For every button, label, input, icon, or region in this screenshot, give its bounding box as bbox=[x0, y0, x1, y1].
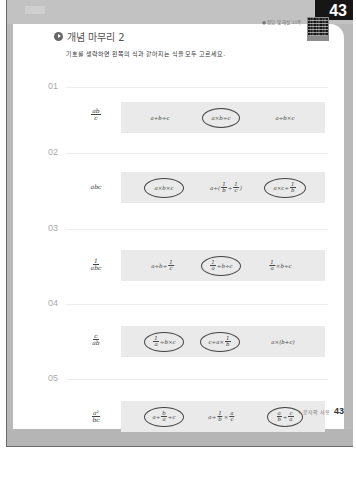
section-title-text: 개념 마무리 2 bbox=[67, 29, 125, 44]
choice[interactable]: a÷b÷1c bbox=[151, 260, 175, 272]
page-content bbox=[13, 24, 344, 429]
choice-box: a×b×c a÷(1b÷1c) a×c÷1b bbox=[121, 172, 325, 203]
question-expression: 1abc bbox=[82, 258, 110, 271]
divider bbox=[66, 87, 328, 88]
divider bbox=[66, 153, 328, 154]
footer-page-number: 43 bbox=[334, 406, 344, 416]
choice-circled[interactable]: a×b×c bbox=[144, 178, 184, 198]
choice-circled[interactable]: a×c÷1b bbox=[264, 178, 306, 198]
choice-circled[interactable]: 1a÷b÷c bbox=[201, 256, 241, 276]
divider bbox=[66, 304, 328, 305]
question-expression: cab bbox=[82, 333, 110, 346]
question-number: 02 bbox=[48, 147, 58, 157]
choice-box: a÷ba÷c a÷1b×ac ab÷ca bbox=[121, 401, 325, 432]
choice[interactable]: a÷b×c bbox=[275, 115, 294, 121]
question-number: 05 bbox=[48, 373, 58, 383]
choice-circled[interactable]: a÷ba÷c bbox=[144, 407, 184, 427]
choice-box: a÷b÷c a×b÷c a÷b×c bbox=[121, 102, 325, 133]
question-expression: a²bc bbox=[82, 410, 110, 423]
choice-box: 1a÷b×c c÷a×1b a×(b+c) bbox=[121, 326, 325, 357]
instruction-text: 기호를 생략하면 왼쪽의 식과 같아지는 식을 모두 고르세요. bbox=[66, 49, 225, 58]
choice[interactable]: a÷b÷c bbox=[150, 115, 169, 121]
choice-circled[interactable]: 1a÷b×c bbox=[144, 332, 184, 352]
choice-circled[interactable]: c÷a×1b bbox=[200, 332, 240, 352]
question-expression: abc bbox=[82, 183, 110, 190]
choice[interactable]: 1a×b÷c bbox=[268, 260, 291, 272]
play-icon bbox=[54, 32, 63, 41]
qr-code-icon[interactable] bbox=[307, 17, 329, 41]
chapter-label: I. 문자의 사용 bbox=[299, 408, 330, 415]
section-title: 개념 마무리 2 bbox=[54, 29, 125, 44]
choice[interactable]: a÷1b×ac bbox=[208, 411, 235, 423]
choice[interactable]: a×(b+c) bbox=[271, 339, 294, 345]
page-footer: I. 문자의 사용 43 bbox=[299, 406, 344, 416]
question-expression: abc bbox=[82, 108, 110, 121]
choice-circled[interactable]: ab÷ca bbox=[267, 407, 303, 427]
question-number: 01 bbox=[48, 81, 58, 91]
answer-reference: ● 정답 및 해설 11쪽 bbox=[262, 19, 301, 25]
choice-circled[interactable]: a×b÷c bbox=[202, 108, 240, 128]
divider bbox=[66, 229, 328, 230]
choice-box: a÷b÷1c 1a÷b÷c 1a×b÷c bbox=[121, 250, 325, 281]
question-number: 04 bbox=[48, 298, 58, 308]
question-number: 03 bbox=[48, 223, 58, 233]
choice[interactable]: a÷(1b÷1c) bbox=[210, 182, 242, 194]
divider bbox=[66, 379, 328, 380]
